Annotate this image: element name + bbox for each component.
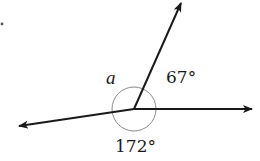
angle-label-67: 67° bbox=[166, 69, 196, 86]
stray-dot bbox=[1, 23, 4, 26]
angle-label-172: 172° bbox=[115, 138, 156, 155]
left-ray-arrow bbox=[19, 109, 134, 126]
upper-ray-arrow bbox=[134, 3, 181, 109]
angle-diagram: a 67° 172° bbox=[0, 0, 260, 161]
angle-label-a: a bbox=[106, 68, 116, 87]
